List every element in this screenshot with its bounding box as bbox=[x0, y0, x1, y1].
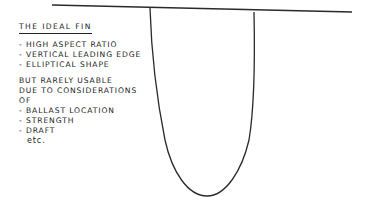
diagram-title: THE IDEAL FIN bbox=[19, 22, 92, 34]
caveat-text: BUT RARELY USABLE bbox=[19, 76, 141, 86]
consideration-item: - BALLAST LOCATION bbox=[19, 106, 141, 116]
feature-item: - ELLIPTICAL SHAPE bbox=[19, 60, 141, 70]
fin-outline bbox=[150, 8, 254, 196]
hull-line bbox=[52, 5, 352, 12]
fin-notes: THE IDEAL FIN - HIGH ASPECT RATIO - VERT… bbox=[19, 22, 141, 146]
etc-text: etc. bbox=[19, 136, 141, 146]
caveat-text: OF bbox=[19, 96, 141, 106]
caveat-text: DUE TO CONSIDERATIONS bbox=[19, 86, 141, 96]
feature-item: - VERTICAL LEADING EDGE bbox=[19, 50, 141, 60]
feature-item: - HIGH ASPECT RATIO bbox=[19, 40, 141, 50]
consideration-item: - DRAFT bbox=[19, 126, 141, 136]
consideration-item: - STRENGTH bbox=[19, 116, 141, 126]
